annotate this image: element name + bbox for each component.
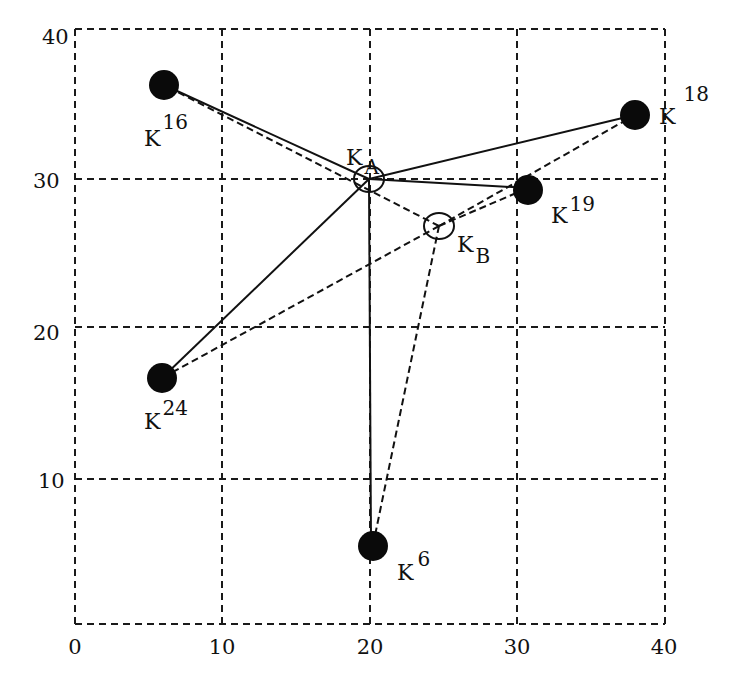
y-tick-30: 30 [33,169,60,193]
hub-a-connections [162,85,635,545]
edge-kb-k16 [164,85,439,226]
edge-ka-k24 [162,179,369,378]
x-axis-labels: 0 10 20 30 40 [68,635,677,659]
edge-ka-k19 [369,179,528,188]
customer-dot-icon [147,363,177,393]
x-tick-30: 30 [504,635,531,659]
customer-k24-label: K24 [144,396,188,434]
customer-k18-label: K18 [659,82,709,129]
edge-ka-k16 [164,85,369,179]
customer-dot-icon [620,100,650,130]
y-tick-20: 20 [33,321,60,345]
hub-b-connections [162,85,635,545]
x-tick-0: 0 [68,635,81,659]
customer-k24: K24 [144,363,188,434]
y-tick-40: 40 [42,25,69,49]
customer-k19-label: K19 [551,192,595,228]
edge-kb-k18 [439,115,635,226]
x-tick-10: 10 [209,635,236,659]
hub-b: KB [424,213,490,268]
customer-k16: K16 [144,70,188,151]
customer-dot-icon [149,70,179,100]
hub-a-label: KA [346,145,379,179]
diagram-canvas: 40 30 20 10 0 10 20 30 40 KA KB K16 [0,0,732,693]
customer-k16-label: K16 [144,110,188,151]
hub-a: KA [346,145,384,192]
edge-ka-k18 [369,115,635,179]
customer-dot-icon [358,531,388,561]
hub-b-label: KB [457,232,490,268]
edge-kb-k6 [373,226,439,545]
customer-dot-icon [513,175,543,205]
customer-k6: K6 [358,531,430,585]
location-diagram: 40 30 20 10 0 10 20 30 40 KA KB K16 [0,0,732,693]
customer-k6-label: K6 [397,547,430,585]
y-axis-labels: 40 30 20 10 [33,25,69,493]
edge-kb-k24 [162,226,439,378]
customer-k19: K19 [513,175,595,228]
x-tick-20: 20 [357,635,384,659]
y-tick-10: 10 [38,469,65,493]
x-tick-40: 40 [651,635,678,659]
